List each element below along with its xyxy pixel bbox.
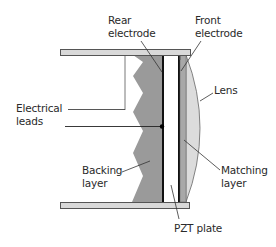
label-lens: Lens <box>214 84 237 97</box>
label-pzt-plate: PZT plate <box>174 222 222 235</box>
pzt-plate-shape <box>164 55 178 202</box>
label-backing-layer: Backing layer <box>82 164 122 190</box>
lead-junction-dot <box>160 124 164 128</box>
transducer-diagram: Rear electrode Front electrode Lens Elec… <box>0 0 276 247</box>
backing-layer-shape <box>132 55 162 202</box>
housing-bottom-bar <box>61 203 190 209</box>
lens-shape <box>186 55 200 202</box>
label-matching-layer: Matching layer <box>221 164 268 190</box>
front-electrode-shape <box>178 55 180 202</box>
label-rear-electrode: Rear electrode <box>108 14 156 40</box>
leader-lens <box>200 93 213 101</box>
label-electrical-leads: Electrical leads <box>16 102 62 128</box>
matching-layer-shape <box>180 55 186 202</box>
housing-top-bar <box>61 50 191 56</box>
label-front-electrode: Front electrode <box>195 14 243 40</box>
